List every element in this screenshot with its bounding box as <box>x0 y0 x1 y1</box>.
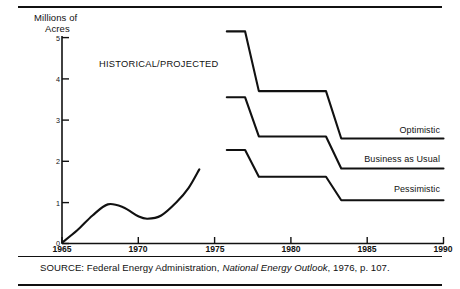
bottom-rule <box>18 284 442 286</box>
x-tick-label-1970: 1970 <box>118 244 158 254</box>
x-tick-label-1980: 1980 <box>271 244 311 254</box>
y-axis-title-line1: Millions of <box>34 12 77 23</box>
series-label-pessimistic: Pessimistic <box>315 184 440 194</box>
x-tick-label-1990: 1990 <box>423 244 460 254</box>
historical-projected-annotation: HISTORICAL/PROJECTED <box>99 59 219 69</box>
y-tick-label-2: 2 <box>48 157 60 166</box>
y-axis-ticks <box>62 38 69 244</box>
y-tick-label-4: 4 <box>48 75 60 84</box>
x-axis-ticks <box>62 237 444 244</box>
x-tick-label-1985: 1985 <box>347 244 387 254</box>
plot-area: Millions ofAcres HISTORICAL/PROJECTED Op… <box>0 0 460 256</box>
y-tick-label-5: 5 <box>48 34 60 43</box>
y-tick-label-1: 1 <box>48 199 60 208</box>
series-label-business-as-usual: Business as Usual <box>285 154 440 164</box>
y-axis-title: Millions ofAcres <box>34 12 77 34</box>
source-suffix: , 1976, p. 107. <box>328 262 390 273</box>
figure-container: Millions ofAcres HISTORICAL/PROJECTED Op… <box>0 0 460 289</box>
source-caption: SOURCE: Federal Energy Administration,Na… <box>40 262 390 273</box>
series-historical <box>62 169 199 242</box>
source-title: National Energy Outlook <box>222 262 327 273</box>
series-optimistic <box>227 31 444 138</box>
x-tick-label-1975: 1975 <box>195 244 235 254</box>
y-axis-title-line2: Acres <box>34 23 77 34</box>
source-prefix: SOURCE: Federal Energy Administration, <box>40 262 219 273</box>
x-tick-label-1965: 1965 <box>42 244 82 254</box>
y-tick-label-3: 3 <box>48 116 60 125</box>
source-divider-rule <box>18 256 442 257</box>
series-label-optimistic: Optimistic <box>315 125 440 135</box>
